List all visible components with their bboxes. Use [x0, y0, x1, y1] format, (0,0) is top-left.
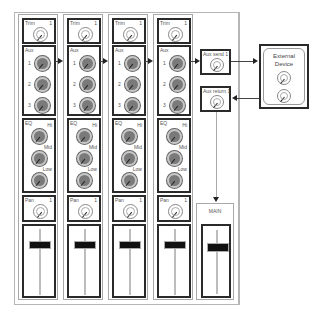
trim-section: Trim 1	[157, 18, 191, 44]
fader-track	[39, 229, 41, 295]
trim-label: Trim	[70, 21, 80, 26]
eq-hi-knob[interactable]	[122, 129, 137, 144]
eq-band-label: Mid	[134, 145, 142, 150]
trim-knob[interactable]	[33, 27, 48, 42]
eq-label: EQ	[115, 121, 122, 126]
main-fader-track	[216, 230, 218, 294]
aux-knob-number: 1	[118, 61, 121, 66]
aux-1-knob[interactable]	[170, 56, 185, 71]
knob-pointer-icon	[80, 159, 84, 164]
pan-label: Pan	[25, 198, 34, 203]
pan-section: Pan 1	[157, 195, 191, 222]
fader-cap[interactable]	[164, 241, 186, 249]
channel-strip: Trim 1 Aux123 EQHiMidLow Pan 1	[153, 14, 193, 300]
knob-pointer-icon	[171, 35, 176, 41]
eq-low-knob[interactable]	[122, 173, 137, 188]
aux-1-knob[interactable]	[80, 56, 95, 71]
trim-knob[interactable]	[123, 27, 138, 42]
knob-pointer-icon	[173, 64, 177, 69]
channel-number: 1	[94, 21, 97, 26]
knob-pointer-icon	[173, 85, 177, 90]
trim-section: Trim 1	[22, 18, 56, 44]
eq-hi-knob[interactable]	[77, 129, 92, 144]
aux-3-knob[interactable]	[80, 98, 95, 113]
trim-section: Trim 1	[112, 18, 146, 44]
trim-knob[interactable]	[168, 27, 183, 42]
fader-section	[157, 224, 191, 298]
external-device-panel: External Device	[263, 48, 305, 105]
knob-pointer-icon	[81, 212, 86, 218]
pan-knob[interactable]	[78, 204, 93, 219]
aux-knob-number: 3	[163, 103, 166, 108]
aux-1-knob[interactable]	[125, 56, 140, 71]
pan-label: Pan	[115, 198, 124, 203]
knob-pointer-icon	[125, 159, 129, 164]
aux-2-knob[interactable]	[170, 77, 185, 92]
trim-label: Trim	[25, 21, 35, 26]
eq-hi-knob[interactable]	[167, 129, 182, 144]
eq-mid-knob[interactable]	[122, 151, 137, 166]
eq-low-knob[interactable]	[77, 173, 92, 188]
aux-label: Aux	[160, 48, 169, 53]
eq-mid-knob[interactable]	[77, 151, 92, 166]
pan-section: Pan 1	[67, 195, 101, 222]
aux-knob-number: 3	[28, 103, 31, 108]
knob-pointer-icon	[128, 106, 132, 111]
eq-band-label: Low	[178, 167, 187, 172]
eq-mid-knob[interactable]	[32, 151, 47, 166]
channel-number: 1	[49, 21, 52, 26]
trim-knob[interactable]	[78, 27, 93, 42]
eq-label: EQ	[70, 121, 77, 126]
knob-pointer-icon	[83, 85, 87, 90]
external-device-knob-2[interactable]	[277, 89, 291, 103]
aux-send-1-box: Aux send 1	[200, 49, 231, 75]
pan-label: Pan	[70, 198, 79, 203]
channel-strip: Trim 1 Aux123 EQHiMidLow Pan 1	[63, 14, 103, 300]
aux-3-knob[interactable]	[170, 98, 185, 113]
aux-2-knob[interactable]	[80, 77, 95, 92]
knob-pointer-icon	[173, 106, 177, 111]
fader-cap[interactable]	[29, 241, 51, 249]
knob-pointer-icon	[38, 85, 42, 90]
knob-pointer-icon	[35, 159, 39, 164]
knob-pointer-icon	[213, 66, 218, 71]
fader-section	[22, 224, 56, 298]
fader-cap[interactable]	[119, 241, 141, 249]
fader-cap[interactable]	[74, 241, 96, 249]
fader-track	[84, 229, 86, 295]
knob-pointer-icon	[128, 64, 132, 69]
aux-knob-number: 1	[73, 61, 76, 66]
eq-band-label: Hi	[92, 123, 97, 128]
eq-section: EQHiMidLow	[22, 118, 56, 193]
return-to-main-line	[216, 112, 217, 198]
pan-number: 1	[139, 198, 142, 203]
aux-send-label: Aux send 1	[203, 52, 228, 57]
pan-knob[interactable]	[33, 204, 48, 219]
knob-pointer-icon	[36, 212, 41, 218]
aux-3-knob[interactable]	[35, 98, 50, 113]
eq-label: EQ	[160, 121, 167, 126]
aux-2-knob[interactable]	[125, 77, 140, 92]
external-device-knob-1[interactable]	[277, 71, 291, 85]
fader-track	[174, 229, 176, 295]
eq-low-knob[interactable]	[167, 173, 182, 188]
eq-mid-knob[interactable]	[167, 151, 182, 166]
eq-band-label: Hi	[47, 123, 52, 128]
aux-return-knob[interactable]	[210, 95, 224, 109]
aux-section: Aux123	[67, 45, 101, 116]
eq-hi-knob[interactable]	[32, 129, 47, 144]
trim-label: Trim	[115, 21, 125, 26]
aux-send-knob[interactable]	[210, 58, 224, 72]
pan-number: 1	[184, 198, 187, 203]
pan-knob[interactable]	[168, 204, 183, 219]
main-fader-cap[interactable]	[207, 243, 229, 252]
aux-2-knob[interactable]	[35, 77, 50, 92]
pan-knob[interactable]	[123, 204, 138, 219]
aux-1-knob[interactable]	[35, 56, 50, 71]
main-label: MAIN	[197, 209, 233, 214]
arrow-right-icon	[253, 58, 258, 64]
channel-number: 1	[139, 21, 142, 26]
aux-3-knob[interactable]	[125, 98, 140, 113]
main-fader-box	[201, 224, 231, 298]
eq-low-knob[interactable]	[32, 173, 47, 188]
